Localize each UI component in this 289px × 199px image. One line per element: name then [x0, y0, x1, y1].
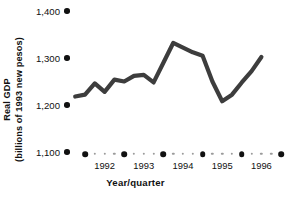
y-axis-tick-dot [64, 55, 70, 61]
x-axis-tick-label: 1995 [212, 160, 233, 171]
x-axis-minor-tick-dot [270, 153, 272, 155]
x-axis-major-tick-dot [161, 151, 167, 157]
x-axis-tick-label: 1994 [173, 160, 194, 171]
x-axis-major-tick-dot [278, 151, 284, 157]
y-axis-tick: 1,300 [28, 52, 70, 64]
x-axis-tick-label: 1996 [251, 160, 272, 171]
y-axis-tick-label: 1,300 [28, 53, 60, 64]
y-axis-tick-dot [64, 8, 70, 14]
x-axis-title-text: Year/quarter [106, 177, 164, 188]
y-axis-tick-label: 1,200 [28, 100, 60, 111]
x-axis-minor-tick-dot [152, 153, 154, 155]
y-axis-tick-dot [64, 102, 70, 108]
gdp-line-chart: Real GDP (billions of 1993 new pesos) 1,… [0, 0, 289, 199]
y-axis-tick: 1,400 [28, 5, 70, 17]
x-axis-major-tick-dot [200, 151, 206, 157]
y-axis-title-line2: (billions of 1993 new pesos) [14, 37, 26, 162]
x-axis-title: Year/quarter [0, 177, 289, 188]
x-axis-minor-tick-dot [231, 153, 233, 155]
x-axis-major-tick-dot [121, 151, 127, 157]
x-axis-minor-tick-dot [113, 153, 115, 155]
x-axis-minor-tick-dot [143, 153, 145, 155]
data-line-svg [70, 4, 289, 156]
x-axis-minor-tick-dot [221, 153, 223, 155]
x-axis-minor-tick-dot [172, 153, 174, 155]
gdp-data-line [75, 43, 261, 101]
x-axis-minor-tick-dot [211, 153, 213, 155]
x-axis-minor-tick-dot [182, 153, 184, 155]
x-axis-minor-tick-dot [133, 153, 135, 155]
x-axis-tick-label: 1992 [94, 160, 115, 171]
x-axis-minor-tick-dot [94, 153, 96, 155]
x-axis-tick-label: 1993 [133, 160, 154, 171]
x-axis-major-tick-dot [82, 151, 88, 157]
y-axis-title-line1: Real GDP [2, 37, 14, 162]
x-axis-major-tick-dot [239, 151, 245, 157]
x-axis-tick-labels: 19921993199419951996 [0, 160, 289, 174]
plot-area [70, 4, 289, 156]
x-axis-minor-tick-dot [103, 153, 105, 155]
y-axis-tick-label: 1,400 [28, 6, 60, 17]
y-axis-tick: 1,200 [28, 99, 70, 111]
x-axis-minor-tick-dot [192, 153, 194, 155]
x-axis-minor-tick-dot [250, 153, 252, 155]
x-axis-minor-tick-dot [260, 153, 262, 155]
x-axis-ticks [0, 149, 289, 159]
